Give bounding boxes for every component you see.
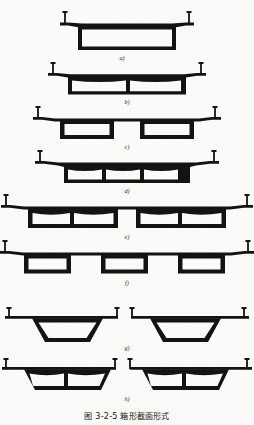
box-cell-2 — [157, 323, 215, 338]
box-1 — [28, 209, 118, 228]
figure-sheet: a) b) c) — [0, 0, 254, 425]
box-cell-2 — [145, 124, 190, 135]
box-cell-3 — [148, 374, 183, 386]
box-1 — [24, 255, 71, 274]
section-label-c: c) — [125, 143, 130, 151]
trapezoid-box-right — [142, 369, 229, 390]
section-label-d: d) — [124, 187, 129, 195]
box-cell-4 — [186, 374, 223, 386]
box-3 — [178, 255, 225, 274]
box-cell-2 — [130, 80, 181, 91]
box-cell-1 — [39, 323, 97, 338]
box-2 — [140, 120, 194, 139]
box-cell-3 — [144, 169, 178, 179]
box-girder-outline — [48, 73, 206, 95]
box-2 — [136, 209, 226, 228]
box-cell-1 — [82, 30, 172, 47]
section-label-h: h) — [124, 395, 129, 403]
box-cell-2 — [106, 169, 140, 179]
box-cell-1 — [72, 80, 126, 91]
box-cell-2 — [68, 374, 105, 386]
section-label-f: f) — [125, 279, 129, 287]
box-cell-1 — [29, 258, 67, 269]
box-girder-outline — [60, 23, 194, 50]
box-1 — [60, 120, 114, 139]
section-label-g: g) — [124, 344, 129, 352]
section-label-e: e) — [125, 233, 130, 241]
section-label-a: a) — [119, 54, 124, 62]
box-cell-1 — [65, 124, 110, 135]
box-cell-3 — [183, 258, 221, 269]
trapezoid-box-left — [24, 369, 111, 390]
box-cell-1 — [68, 169, 102, 179]
box-cell-1 — [30, 374, 65, 386]
figure-caption: 图 3-2-5 箱形截面形式 — [84, 411, 169, 421]
section-label-b: b) — [124, 98, 129, 106]
box-cell-2 — [106, 258, 144, 269]
box-2 — [101, 255, 148, 274]
